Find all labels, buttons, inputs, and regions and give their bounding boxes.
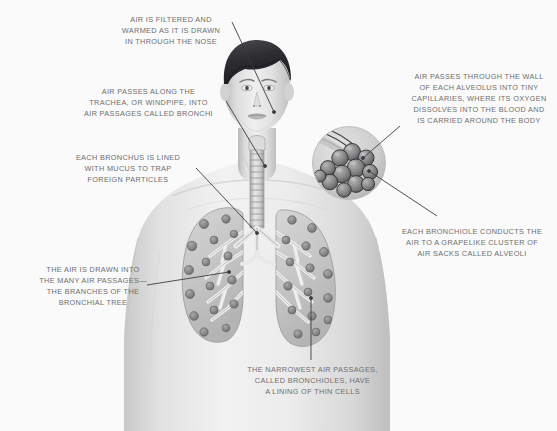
annotation-bronchus: EACH BRONCHUS IS LINED WITH MUCUS TO TRA… [64, 152, 192, 185]
annotation-bronchial-tree: THE AIR IS DRAWN INTO THE MANY AIR PASSA… [28, 264, 158, 308]
annotation-nose: AIR IS FILTERED AND WARMED AS IT IS DRAW… [115, 14, 227, 47]
annotation-trachea: AIR PASSES ALONG THE TRACHEA, OR WINDPIP… [76, 86, 221, 119]
trachea-windpipe [249, 136, 265, 229]
head-and-face [220, 40, 294, 132]
annotation-alveoli-cluster: EACH BRONCHIOLE CONDUCTS THE AIR TO A GR… [396, 226, 548, 259]
annotation-alveolus-wall: AIR PASSES THROUGH THE WALL OF EACH ALVE… [404, 71, 554, 126]
alveolar-cluster-inset [313, 127, 386, 200]
annotation-bronchioles: THE NARROWEST AIR PASSAGES, CALLED BRONC… [239, 364, 386, 397]
respiratory-system-diagram: AIR IS FILTERED AND WARMED AS IT IS DRAW… [0, 0, 557, 431]
